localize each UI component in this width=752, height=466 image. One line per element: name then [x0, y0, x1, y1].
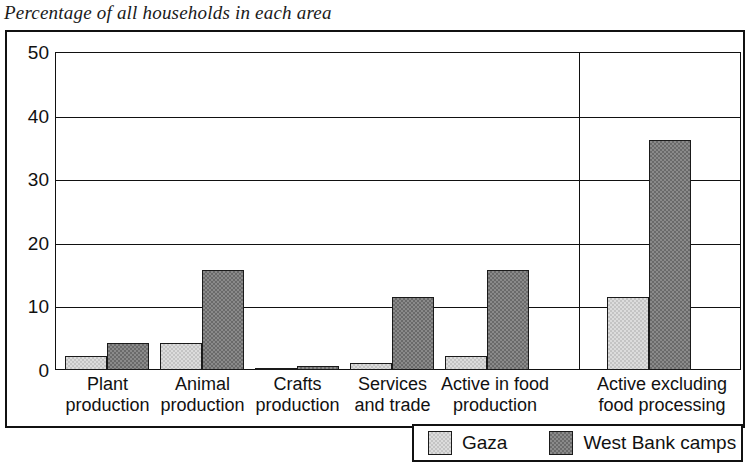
y-tick-40: 40 — [3, 107, 49, 126]
y-tick-30: 30 — [3, 170, 49, 189]
y-tick-50: 50 — [3, 43, 49, 62]
bar-westbank-plant-production[interactable] — [107, 343, 149, 370]
y-tick-10: 10 — [3, 297, 49, 316]
bar-gaza-active-in-food-production[interactable] — [445, 356, 487, 370]
y-tick-0: 0 — [3, 361, 49, 380]
bar-westbank-services-and-trade[interactable] — [392, 297, 434, 370]
legend-item-gaza[interactable]: Gaza — [428, 431, 507, 455]
bar-gaza-active-excluding-food-processing[interactable] — [607, 297, 649, 370]
bar-westbank-active-in-food-production[interactable] — [487, 270, 529, 370]
legend-label-gaza: Gaza — [462, 432, 507, 454]
legend-item-west-bank-camps[interactable]: West Bank camps — [549, 431, 736, 455]
bar-gaza-plant-production[interactable] — [65, 356, 107, 370]
bar-gaza-animal-production[interactable] — [160, 343, 202, 370]
x-axis-labels: Plant production Animal production Craft… — [55, 374, 741, 420]
bar-gaza-crafts-production[interactable] — [255, 368, 297, 370]
chart-legend: Gaza West Bank camps — [412, 424, 743, 462]
bar-westbank-active-excluding-food-processing[interactable] — [649, 140, 691, 370]
legend-swatch-west-bank-camps — [549, 431, 573, 455]
bars-layer — [55, 52, 741, 370]
x-label-line-1: Active in food — [425, 374, 565, 395]
bar-gaza-services-and-trade[interactable] — [350, 363, 392, 370]
bar-westbank-animal-production[interactable] — [202, 270, 244, 370]
x-label-line-2: food processing — [582, 395, 742, 416]
legend-swatch-gaza — [428, 431, 452, 455]
bar-westbank-crafts-production[interactable] — [297, 366, 339, 371]
chart-screenshot: Percentage of all households in each are… — [0, 0, 752, 466]
x-label-active-excluding-food-processing: Active excluding food processing — [582, 374, 742, 416]
plot-wrapper: 50 40 30 20 10 0 — [0, 0, 752, 466]
x-label-line-2: production — [425, 395, 565, 416]
y-axis: 50 40 30 20 10 0 — [0, 52, 49, 372]
y-tick-20: 20 — [3, 234, 49, 253]
x-label-line-1: Active excluding — [582, 374, 742, 395]
x-label-active-in-food-production: Active in food production — [425, 374, 565, 416]
legend-label-west-bank-camps: West Bank camps — [583, 432, 736, 454]
